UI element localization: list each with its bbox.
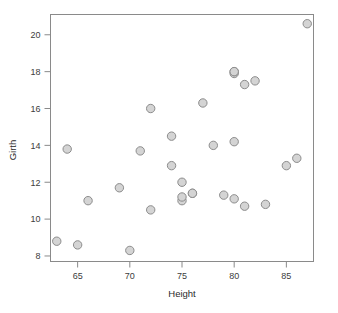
x-tick-label: 85	[281, 271, 291, 281]
y-tick-label: 20	[30, 30, 40, 40]
data-point	[293, 154, 301, 162]
data-point	[230, 137, 238, 145]
scatter-plot-figure: 8101214161820 6570758085 Girth Height	[0, 0, 338, 313]
y-tick-label: 8	[35, 251, 40, 261]
x-tick-label: 80	[229, 271, 239, 281]
data-point	[240, 202, 248, 210]
data-point	[303, 20, 311, 28]
x-axis-label: Height	[168, 288, 196, 299]
data-point	[230, 67, 238, 75]
y-tick-label: 16	[30, 104, 40, 114]
data-point	[167, 132, 175, 140]
plot-canvas: 8101214161820 6570758085 Girth Height	[0, 0, 338, 313]
data-point	[230, 195, 238, 203]
y-axis-label: Girth	[7, 140, 18, 161]
y-tick-label: 10	[30, 214, 40, 224]
data-point	[136, 147, 144, 155]
data-point	[115, 184, 123, 192]
data-point	[188, 189, 196, 197]
x-tick-label: 70	[125, 271, 135, 281]
x-tick-label: 65	[73, 271, 83, 281]
data-point	[209, 141, 217, 149]
data-point	[282, 161, 290, 169]
y-tick-label: 14	[30, 141, 40, 151]
data-point	[146, 206, 154, 214]
data-point	[63, 145, 71, 153]
data-point	[73, 241, 81, 249]
data-point	[240, 80, 248, 88]
data-point	[53, 237, 61, 245]
data-point	[167, 161, 175, 169]
data-point	[146, 104, 154, 112]
data-point	[178, 178, 186, 186]
x-tick-label: 75	[177, 271, 187, 281]
data-point	[261, 200, 269, 208]
data-point	[220, 191, 228, 199]
data-point	[126, 246, 134, 254]
data-point	[84, 196, 92, 204]
y-tick-label: 18	[30, 67, 40, 77]
data-point	[199, 99, 207, 107]
data-point	[251, 77, 259, 85]
y-tick-label: 12	[30, 178, 40, 188]
data-point	[178, 193, 186, 201]
